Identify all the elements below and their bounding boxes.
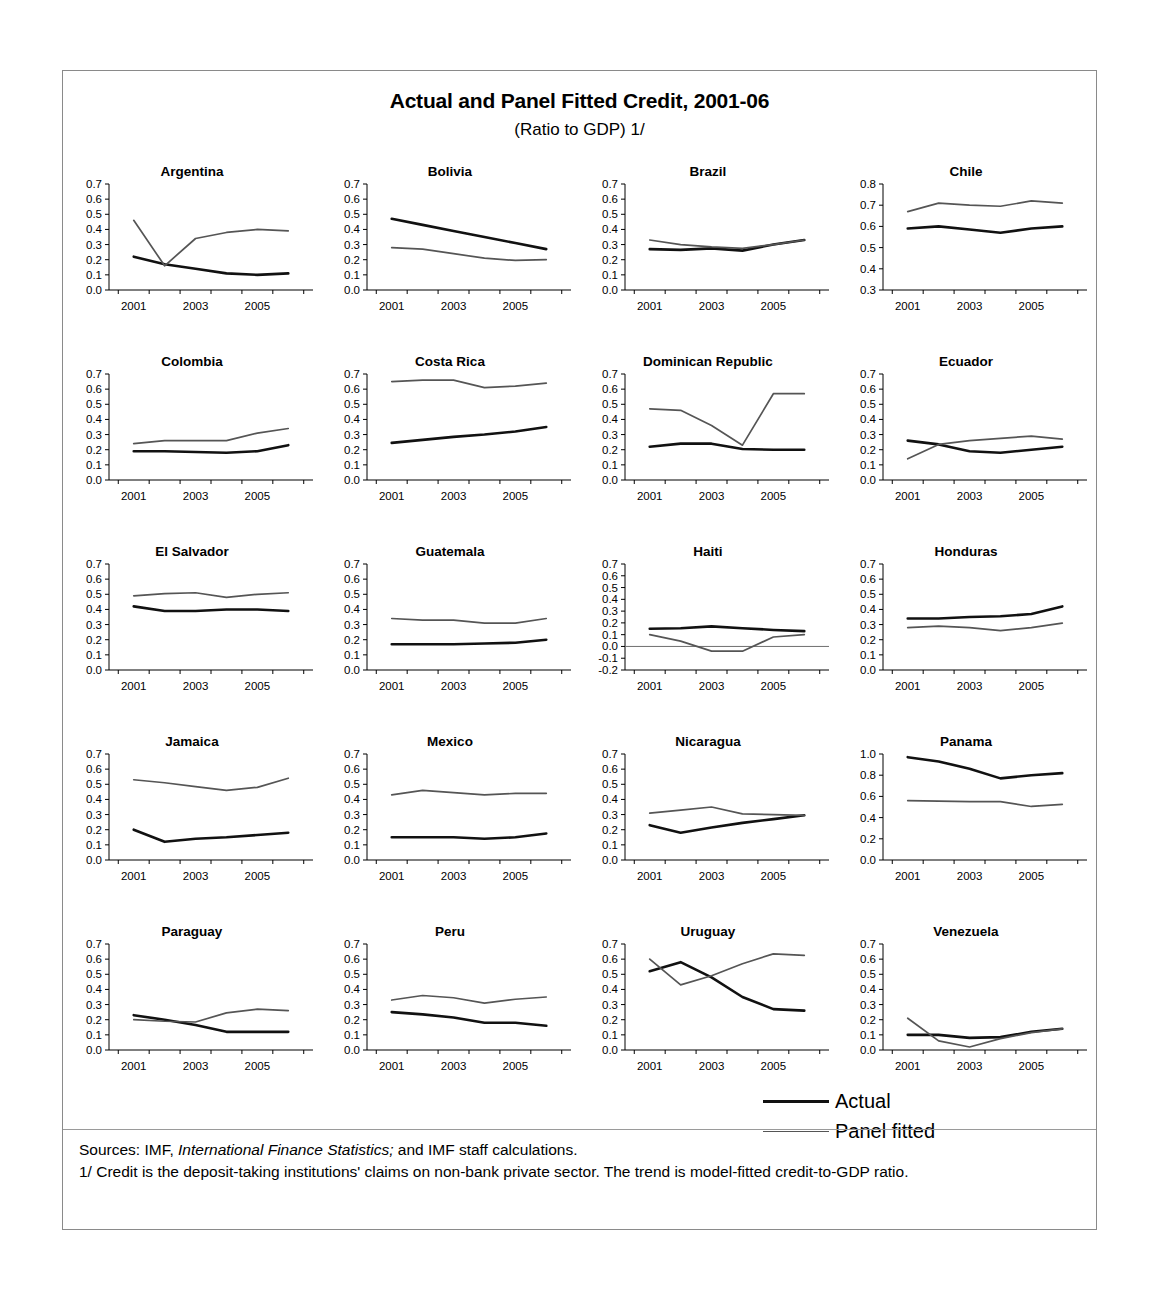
y-tick-label: 0.4 xyxy=(86,983,103,995)
legend-line-actual-icon xyxy=(763,1100,829,1103)
y-tick-label: 0.7 xyxy=(86,178,102,190)
y-tick-label: 0.3 xyxy=(344,809,360,821)
y-tick-label: 0.0 xyxy=(86,1044,102,1056)
plot-area: 0.00.10.20.30.40.50.60.7200120032005 xyxy=(63,542,321,718)
figure-notes: Sources: IMF, International Finance Stat… xyxy=(79,1139,1080,1183)
y-tick-label: -0.2 xyxy=(598,664,618,676)
x-tick-label: 2005 xyxy=(503,680,529,692)
y-tick-label: 0.4 xyxy=(602,793,619,805)
series-line-panel-fitted xyxy=(908,801,1063,807)
y-tick-label: 0.0 xyxy=(86,664,102,676)
y-tick-label: 0.6 xyxy=(860,383,876,395)
series-line-panel-fitted xyxy=(134,778,289,790)
y-tick-label: 0.0 xyxy=(344,854,360,866)
y-tick-label: 0.0 xyxy=(602,284,618,296)
chart-panel-bolivia: Bolivia0.00.10.20.30.40.50.60.7200120032… xyxy=(321,162,579,352)
x-tick-label: 2005 xyxy=(761,490,787,502)
x-tick-label: 2001 xyxy=(637,490,663,502)
y-tick-label: 0.4 xyxy=(860,812,877,824)
y-tick-label: 0.1 xyxy=(86,459,102,471)
y-tick-label: -0.1 xyxy=(598,652,618,664)
chart-panel-colombia: Colombia0.00.10.20.30.40.50.60.720012003… xyxy=(63,352,321,542)
y-tick-label: 0.3 xyxy=(344,619,360,631)
y-tick-label: 0.6 xyxy=(602,383,618,395)
y-tick-label: 0.8 xyxy=(860,769,876,781)
y-tick-label: 0.6 xyxy=(344,763,360,775)
plot-area: 0.00.10.20.30.40.50.60.7200120032005 xyxy=(321,352,579,528)
y-tick-label: 0.0 xyxy=(344,664,360,676)
y-tick-label: 0.4 xyxy=(344,223,361,235)
x-tick-label: 2003 xyxy=(957,490,983,502)
y-tick-label: 0.1 xyxy=(86,269,102,281)
plot-area: 0.30.40.50.60.70.8200120032005 xyxy=(837,162,1095,338)
plot-area: 0.00.10.20.30.40.50.60.7200120032005 xyxy=(63,922,321,1098)
y-tick-label: 0.6 xyxy=(344,383,360,395)
y-tick-label: 0.0 xyxy=(602,1044,618,1056)
x-tick-label: 2001 xyxy=(121,680,147,692)
x-tick-label: 2003 xyxy=(699,680,725,692)
y-tick-label: 0.5 xyxy=(86,778,102,790)
x-tick-label: 2001 xyxy=(121,490,147,502)
y-tick-label: 0.2 xyxy=(602,254,618,266)
x-tick-label: 2003 xyxy=(699,300,725,312)
x-tick-label: 2001 xyxy=(637,300,663,312)
y-tick-label: 0.3 xyxy=(86,429,102,441)
chart-panel-el-salvador: El Salvador0.00.10.20.30.40.50.60.720012… xyxy=(63,542,321,732)
y-tick-label: 0.2 xyxy=(86,254,102,266)
y-tick-label: 0.5 xyxy=(602,398,618,410)
y-tick-label: 0.0 xyxy=(86,474,102,486)
notes-divider xyxy=(63,1129,1096,1130)
series-line-actual xyxy=(650,240,805,251)
series-line-panel-fitted xyxy=(908,436,1063,459)
y-tick-label: 0.4 xyxy=(860,263,877,275)
y-tick-label: 0.2 xyxy=(344,254,360,266)
y-tick-label: 0.4 xyxy=(86,413,103,425)
plot-area: 0.00.10.20.30.40.50.60.7200120032005 xyxy=(321,922,579,1098)
figure-frame: Actual and Panel Fitted Credit, 2001-06 … xyxy=(62,70,1097,1230)
y-tick-label: 0.1 xyxy=(344,459,360,471)
x-tick-label: 2003 xyxy=(183,870,209,882)
x-tick-label: 2005 xyxy=(245,680,271,692)
series-line-actual xyxy=(650,626,805,631)
y-tick-label: 0.7 xyxy=(344,938,360,950)
y-tick-label: 0.3 xyxy=(602,239,618,251)
x-tick-label: 2001 xyxy=(895,680,921,692)
series-line-actual xyxy=(392,427,547,443)
chart-panel-haiti: Haiti-0.2-0.10.00.10.20.30.40.50.60.7200… xyxy=(579,542,837,732)
series-line-panel-fitted xyxy=(392,790,547,795)
y-tick-label: 0.4 xyxy=(602,223,619,235)
y-tick-label: 0.2 xyxy=(602,824,618,836)
y-tick-label: 0.3 xyxy=(86,809,102,821)
x-tick-label: 2003 xyxy=(441,490,467,502)
series-line-panel-fitted xyxy=(650,807,805,815)
plot-area: 0.00.10.20.30.40.50.60.7200120032005 xyxy=(63,352,321,528)
y-tick-label: 0.7 xyxy=(86,368,102,380)
y-tick-label: 0.2 xyxy=(86,824,102,836)
chart-panel-costa-rica: Costa Rica0.00.10.20.30.40.50.60.7200120… xyxy=(321,352,579,542)
series-line-panel-fitted xyxy=(908,201,1063,212)
y-tick-label: 0.0 xyxy=(860,854,876,866)
chart-panel-paraguay: Paraguay0.00.10.20.30.40.50.60.720012003… xyxy=(63,922,321,1112)
y-tick-label: 0.2 xyxy=(86,1014,102,1026)
series-line-panel-fitted xyxy=(908,1018,1063,1047)
series-line-panel-fitted xyxy=(134,220,289,265)
y-tick-label: 0.6 xyxy=(86,573,102,585)
y-tick-label: 0.6 xyxy=(344,193,360,205)
series-line-panel-fitted xyxy=(650,954,805,985)
x-tick-label: 2005 xyxy=(1019,680,1045,692)
y-tick-label: 0.3 xyxy=(860,999,876,1011)
small-multiples-grid: Argentina0.00.10.20.30.40.50.60.72001200… xyxy=(63,162,1096,1112)
x-tick-label: 2001 xyxy=(121,1060,147,1072)
y-tick-label: 0.5 xyxy=(860,588,876,600)
x-tick-label: 2001 xyxy=(379,300,405,312)
series-line-actual xyxy=(908,757,1063,778)
chart-panel-jamaica: Jamaica0.00.10.20.30.40.50.60.7200120032… xyxy=(63,732,321,922)
y-tick-label: 0.7 xyxy=(602,178,618,190)
chart-panel-dominican-republic: Dominican Republic0.00.10.20.30.40.50.60… xyxy=(579,352,837,542)
y-tick-label: 0.4 xyxy=(344,603,361,615)
y-tick-label: 0.6 xyxy=(86,953,102,965)
y-tick-label: 0.5 xyxy=(602,968,618,980)
y-tick-label: 0.5 xyxy=(344,208,360,220)
x-tick-label: 2003 xyxy=(699,1060,725,1072)
x-tick-label: 2005 xyxy=(761,300,787,312)
